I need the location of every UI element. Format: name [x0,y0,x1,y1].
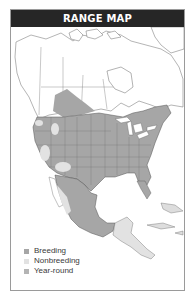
caribbean-islands [147,203,183,235]
range-map-panel: RANGE MAP [10,9,185,291]
florida [137,181,151,199]
usa-range [33,105,171,191]
legend-label: Nonbreeding [34,256,80,266]
year-round-swatch-icon [24,269,29,274]
map-legend: Breeding Nonbreeding Year-round [24,246,80,276]
legend-label: Breeding [34,246,66,256]
legend-item-nonbreeding: Nonbreeding [24,256,80,266]
nonbreeding-swatch-icon [24,259,29,264]
legend-label: Year-round [34,266,73,276]
range-map-title: RANGE MAP [11,10,184,27]
legend-item-year-round: Year-round [24,266,80,276]
legend-item-breeding: Breeding [24,246,80,256]
breeding-swatch-icon [24,249,29,254]
central-america [113,217,155,259]
